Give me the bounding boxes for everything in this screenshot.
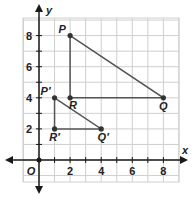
y-axis-arrow-up-icon xyxy=(35,4,43,12)
x-tick-label: 4 xyxy=(98,165,105,177)
vertex-label: Q xyxy=(159,100,168,112)
coordinate-plane: 24682468Oxy PQRP′Q′R′ xyxy=(0,0,193,197)
origin-label: O xyxy=(27,165,36,177)
vertex-label: Q′ xyxy=(98,131,111,143)
y-axis-arrow-down-icon xyxy=(35,186,43,194)
vertex-label: P xyxy=(58,23,66,35)
y-tick-label: 2 xyxy=(26,123,32,135)
vertex-point xyxy=(52,95,57,100)
vertex-label: R xyxy=(69,99,77,111)
x-tick-label: 6 xyxy=(129,165,135,177)
y-tick-label: 4 xyxy=(26,92,33,104)
origin-point xyxy=(37,158,42,163)
vertex-point xyxy=(68,33,73,38)
y-tick-label: 8 xyxy=(26,30,32,42)
x-tick-label: 2 xyxy=(67,165,73,177)
x-axis-arrow-right-icon xyxy=(180,156,188,164)
vertex-label: R′ xyxy=(49,131,61,143)
x-axis-arrow-left-icon xyxy=(5,156,13,164)
y-tick-label: 6 xyxy=(26,61,32,73)
vertex-label: P′ xyxy=(41,85,52,97)
y-axis-label: y xyxy=(45,4,53,16)
x-axis-label: x xyxy=(181,144,189,156)
x-tick-label: 8 xyxy=(160,165,166,177)
